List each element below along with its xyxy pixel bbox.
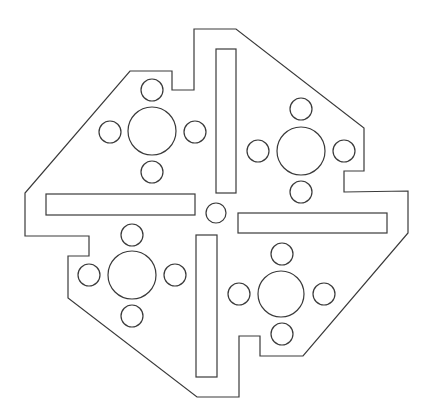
bottom-right-bolt-hole (271, 243, 293, 265)
top-right-bolt-hole (247, 140, 269, 162)
top-right-bolt-hole (290, 98, 312, 120)
center-hole (206, 203, 226, 223)
slots (46, 49, 387, 377)
bottom-left-bolt-hole (121, 224, 143, 246)
bottom-right-bolt-hole (228, 283, 250, 305)
diagram-canvas: mechanical plate outline (0, 0, 432, 420)
top-right-bolt-hole (333, 140, 355, 162)
top-left-bolt-hole (141, 161, 163, 183)
top-left-bolt-hole (99, 121, 121, 143)
bottom-left-bolt-hole (164, 264, 186, 286)
bottom-left-bolt-hole (121, 305, 143, 327)
bottom-right-main-hole (258, 271, 304, 317)
slot-top (216, 49, 236, 193)
bottom-right-bolt-hole (313, 283, 335, 305)
top-left-bolt-hole (141, 79, 163, 101)
plate-drawing (0, 0, 432, 420)
bottom-left-main-hole (108, 251, 156, 299)
slot-bottom (196, 235, 217, 377)
top-left-bolt-hole (184, 121, 206, 143)
top-right-main-hole (277, 127, 325, 175)
bottom-right-bolt-hole (271, 323, 293, 345)
slot-right (238, 213, 387, 233)
bottom-left-bolt-hole (78, 264, 100, 286)
slot-left (46, 194, 195, 215)
top-left-main-hole (128, 107, 176, 155)
top-right-bolt-hole (290, 181, 312, 203)
